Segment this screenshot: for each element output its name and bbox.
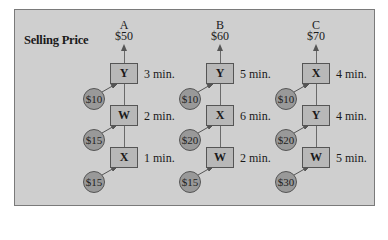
machine-box: W (110, 105, 138, 126)
product-a-price: $50 (104, 31, 144, 42)
material-cost: $20 (275, 129, 297, 151)
machine-box: X (206, 105, 234, 126)
process-time: 1 min. (144, 151, 175, 166)
process-time: 5 min. (336, 151, 367, 166)
product-b-price: $60 (200, 31, 240, 42)
process-time: 2 min. (144, 109, 175, 124)
process-time: 5 min. (240, 67, 271, 82)
material-cost: $20 (179, 129, 201, 151)
up-arrow-icon (313, 44, 319, 51)
machine-box: Y (206, 63, 234, 84)
process-time: 4 min. (336, 109, 367, 124)
process-time: 6 min. (240, 109, 271, 124)
material-cost: $10 (179, 88, 201, 110)
material-cost: $30 (275, 171, 297, 193)
material-cost: $10 (275, 88, 297, 110)
process-time: 2 min. (240, 151, 271, 166)
up-arrow-icon (217, 44, 223, 51)
product-c-price: $70 (296, 31, 336, 42)
material-cost: $15 (83, 171, 105, 193)
machine-box: Y (302, 105, 330, 126)
machine-box: X (302, 63, 330, 84)
machine-box: W (302, 147, 330, 168)
machine-box: X (110, 147, 138, 168)
material-cost: $15 (179, 171, 201, 193)
material-cost: $10 (83, 88, 105, 110)
machine-box: W (206, 147, 234, 168)
up-arrow-icon (121, 44, 127, 51)
machine-box: Y (110, 63, 138, 84)
material-cost: $15 (83, 129, 105, 151)
process-time: 3 min. (144, 67, 175, 82)
process-time: 4 min. (336, 67, 367, 82)
